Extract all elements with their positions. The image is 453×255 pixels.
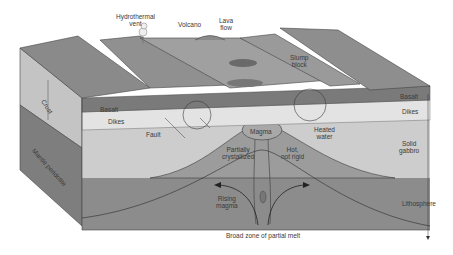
label-heated-water: Heated water [314, 126, 335, 140]
rising-magma-blob [260, 191, 266, 203]
lava-flow-2 [227, 79, 263, 87]
label-lava-flow: Lava flow [219, 17, 233, 31]
ridge-diagram [0, 0, 453, 255]
label-fault: Fault [146, 131, 160, 138]
label-partial-melt: Broad zone of partial melt [226, 232, 300, 239]
volcano [195, 36, 225, 41]
label-magma: Magma [250, 128, 272, 135]
label-hot-not-rigid: Hot, not rigid [281, 146, 304, 160]
label-partially-crystallized: Partially crystallized [222, 146, 254, 160]
label-dikes-left: Dikes [108, 118, 124, 125]
lava-flow [229, 59, 257, 67]
label-dikes-right: Dikes [402, 108, 418, 115]
lithosphere-arrow [426, 236, 430, 240]
label-lithosphere: Lithosphere [402, 200, 436, 207]
label-hydrothermal-vent: Hydrothermal vent [116, 13, 155, 27]
label-volcano: Volcano [178, 21, 201, 28]
label-solid-gabbro: Solid gabbro [399, 140, 419, 154]
label-slump-block: Slump block [290, 54, 308, 68]
label-basalt-left: Basalt [100, 106, 118, 113]
label-rising-magma: Rising magma [216, 195, 238, 209]
label-basalt-right: Basalt [400, 93, 418, 100]
